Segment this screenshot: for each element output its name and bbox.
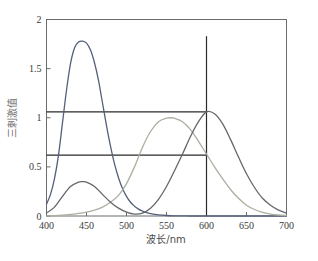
chart-container: 00.511.52 400450500550600650700 波长/nm 三刺… (0, 0, 318, 261)
y-tick-label: 1 (37, 112, 42, 123)
x-tick-label: 400 (39, 220, 54, 231)
x-axis-label: 波长/nm (146, 233, 185, 245)
y-axis-label: 三刺激值 (6, 98, 18, 138)
x-tick-label: 650 (239, 220, 254, 231)
y-tick-label: 2 (37, 14, 42, 25)
x-tick-label: 450 (79, 220, 94, 231)
y-tick-label: 0.5 (29, 161, 42, 172)
y-tick-label: 1.5 (29, 63, 42, 74)
x-tick-label: 700 (279, 220, 294, 231)
x-tick-label: 500 (119, 220, 134, 231)
tristimulus-chart: 00.511.52 400450500550600650700 波长/nm 三刺… (0, 0, 318, 261)
x-tick-label: 600 (199, 220, 214, 231)
x-tick-label: 550 (159, 220, 174, 231)
